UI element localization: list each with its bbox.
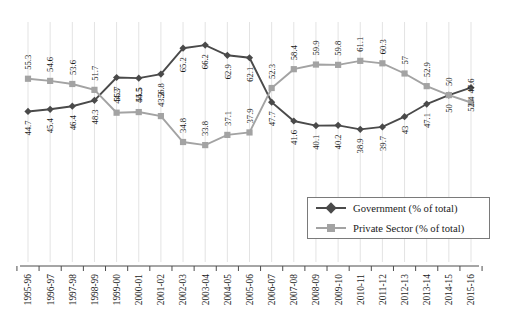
chart-legend: Government (% of total) Private Sector (… <box>307 197 490 239</box>
data-label: 54.6 <box>45 56 55 72</box>
data-point-marker <box>25 76 31 82</box>
data-point-marker <box>357 58 363 64</box>
x-axis-tick-label: 2015-16 <box>466 274 476 306</box>
x-axis-tick-label: 2002-03 <box>178 274 188 306</box>
x-axis-tick-label: 2014-15 <box>444 274 454 306</box>
data-label: 41.6 <box>289 129 299 145</box>
data-label: 44.5 <box>134 88 144 103</box>
data-label: 44.7 <box>23 120 33 136</box>
legend-item-private-sector[interactable]: Private Sector (% of total) <box>308 218 489 238</box>
data-point-marker <box>446 92 452 98</box>
data-label: 48.3 <box>90 109 100 124</box>
data-label: 50 <box>444 104 454 113</box>
data-label: 59.8 <box>333 41 343 56</box>
data-label: 60.3 <box>378 39 388 54</box>
data-point-marker <box>313 61 319 67</box>
data-point-marker <box>246 54 253 61</box>
data-point-marker <box>224 52 231 59</box>
x-axis-tick-label: 1995-96 <box>23 274 33 306</box>
data-label: 52.9 <box>422 62 432 77</box>
data-label: 65.2 <box>178 57 188 72</box>
data-label: 52.4 <box>466 96 476 112</box>
data-point-marker <box>202 142 208 148</box>
data-label: 52.3 <box>267 64 277 79</box>
data-point-marker <box>246 129 252 135</box>
x-axis-tick-label: 2011-12 <box>378 274 388 305</box>
x-axis-tick-label: 1998-99 <box>90 274 100 306</box>
data-label: 61.1 <box>355 37 365 52</box>
data-point-marker <box>379 123 386 130</box>
data-point-marker <box>335 122 342 129</box>
data-label: 40.2 <box>333 134 343 149</box>
data-point-marker <box>202 42 209 49</box>
data-point-marker <box>135 75 142 82</box>
x-axis-tick-label: 2001-02 <box>156 274 166 306</box>
x-axis-tick-label: 2008-09 <box>311 274 321 306</box>
x-axis-tick-label: 2006-07 <box>267 274 277 306</box>
x-axis-tick-label: 2013-14 <box>422 274 432 306</box>
data-point-marker <box>47 78 53 84</box>
data-label: 39.7 <box>378 135 388 151</box>
legend-marker-square-icon <box>316 222 346 234</box>
data-label: 33.8 <box>200 121 210 136</box>
data-point-marker <box>91 87 97 93</box>
x-axis-tick-label: 2007-08 <box>289 274 299 306</box>
x-axis-tick-label: 2003-04 <box>201 274 211 306</box>
data-point-marker <box>224 132 230 138</box>
data-label: 62.9 <box>223 64 233 79</box>
data-label: 57 <box>400 55 410 64</box>
data-label: 37.9 <box>245 108 255 123</box>
data-label: 47.1 <box>422 113 432 128</box>
legend-item-government[interactable]: Government (% of total) <box>308 198 489 218</box>
x-axis-tick-label: 2012-13 <box>400 274 410 306</box>
data-label: 59.9 <box>311 41 321 56</box>
data-label: 44.3 <box>112 89 122 104</box>
data-label: 43 <box>400 126 410 135</box>
data-point-marker <box>335 62 341 68</box>
data-label: 62.1 <box>245 67 255 82</box>
x-axis-tick-label: 1996-97 <box>46 274 56 306</box>
data-label: 55.3 <box>23 55 33 70</box>
data-point-marker <box>291 66 297 72</box>
data-point-marker <box>69 81 75 87</box>
data-label: 38.9 <box>355 138 365 153</box>
x-axis-tick-label: 2009-10 <box>334 274 344 306</box>
data-label: 40.1 <box>311 135 321 150</box>
x-axis-tick-label: 1999-00 <box>112 274 122 306</box>
x-axis-tick-label: 2004-05 <box>223 274 233 306</box>
data-label: 51.7 <box>90 65 100 81</box>
x-axis-tick-label: 1997-98 <box>68 274 78 306</box>
x-axis-tick-labels: 1995-961996-971997-981998-991999-002000-… <box>23 274 476 306</box>
data-point-marker <box>158 113 164 119</box>
x-axis <box>17 266 482 271</box>
data-point-marker <box>357 126 364 133</box>
data-label: 37.1 <box>223 111 233 126</box>
chart-plot-area: 44.745.446.448.355.755.556.865.266.262.9… <box>0 0 505 335</box>
data-label: 50 <box>444 78 454 87</box>
data-label: 43.2 <box>156 92 166 107</box>
data-label: 34.8 <box>178 118 188 133</box>
data-point-marker <box>114 110 120 116</box>
line-chart: 44.745.446.448.355.755.556.865.266.262.9… <box>0 0 505 335</box>
data-point-marker <box>69 103 76 110</box>
data-point-marker <box>269 85 275 91</box>
data-point-marker <box>136 109 142 115</box>
x-axis-tick-label: 2000-01 <box>134 274 144 306</box>
data-point-marker <box>401 70 407 76</box>
legend-label-private-sector: Private Sector (% of total) <box>353 223 464 234</box>
legend-label-government: Government (% of total) <box>353 203 457 214</box>
x-axis-tick-label: 2010-11 <box>356 274 366 305</box>
data-point-marker <box>379 60 385 66</box>
data-point-marker <box>47 106 54 113</box>
data-label: 53.6 <box>68 59 78 75</box>
data-point-marker <box>180 139 186 145</box>
data-label: 66.2 <box>200 54 210 69</box>
data-point-marker <box>24 108 31 115</box>
legend-marker-diamond-icon <box>316 202 346 214</box>
data-label: 47.6 <box>466 78 476 94</box>
data-label: 46.4 <box>68 115 78 131</box>
x-axis-tick-label: 2005-06 <box>245 274 255 306</box>
data-point-marker <box>424 83 430 89</box>
data-label: 45.4 <box>45 118 55 134</box>
data-label: 47.7 <box>267 111 277 127</box>
